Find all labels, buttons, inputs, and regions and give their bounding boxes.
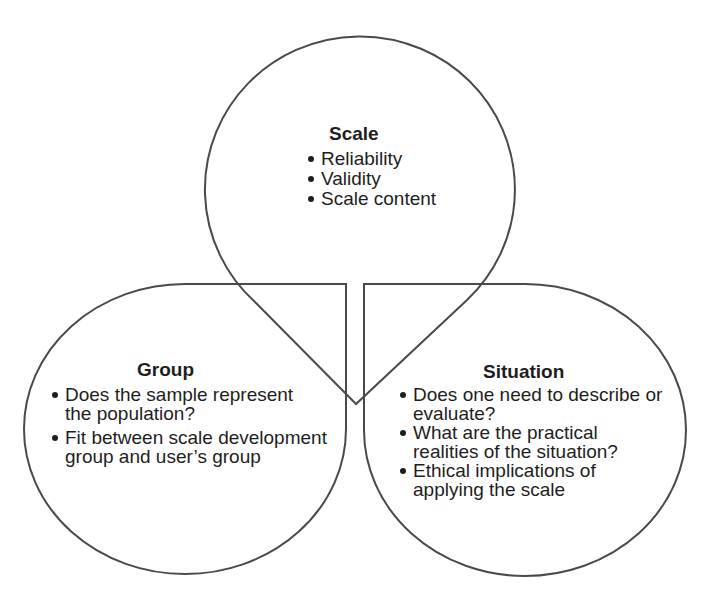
scale-lobe-shape — [205, 36, 515, 404]
situation-item: Does one need to describe or evaluate? — [401, 385, 662, 423]
scale-title: Scale — [329, 124, 379, 143]
situation-item: Ethical implications of applying the sca… — [401, 461, 662, 499]
scale-item-list: Reliability Validity Scale content — [309, 149, 436, 209]
situation-item-list: Does one need to describe or evaluate? W… — [401, 385, 662, 499]
situation-title: Situation — [483, 362, 564, 381]
diagram-shapes — [0, 0, 709, 601]
situation-content: Does one need to describe or evaluate? W… — [401, 385, 662, 499]
group-item: Does the sample represent the population… — [53, 385, 327, 423]
group-content: Does the sample represent the population… — [53, 385, 327, 471]
scale-item: Reliability — [309, 149, 436, 169]
group-item-list: Does the sample represent the population… — [53, 385, 327, 466]
group-item: Fit between scale development group and … — [53, 428, 327, 466]
scale-item: Validity — [309, 169, 436, 189]
scale-content: Reliability Validity Scale content — [309, 149, 436, 209]
situation-item: What are the practical realities of the … — [401, 423, 662, 461]
scale-item: Scale content — [309, 189, 436, 209]
group-title: Group — [137, 360, 194, 379]
